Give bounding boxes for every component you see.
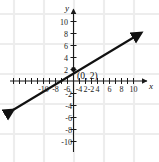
x-tick-label-neg8: -8: [52, 85, 59, 94]
point-annotation-label: (0, 2): [77, 71, 98, 82]
y-intercept-point: [71, 67, 76, 72]
x-tick-label-neg4: -4: [76, 85, 83, 94]
y-axis-label: y: [64, 3, 69, 13]
graph-figure: -10 -8 -6 -4 -2 2 4 6 8 10 10 8 6 4 2 -2…: [0, 0, 159, 162]
y-tick-label-neg10: -10: [61, 138, 72, 147]
x-tick-label-10: 10: [130, 85, 138, 94]
y-tick-label-10: 10: [60, 18, 68, 27]
x-axis-label: x: [148, 81, 153, 91]
y-tick-label-2: 2: [64, 66, 68, 75]
y-tick-label-neg8: -8: [65, 126, 72, 135]
x-tick-label-neg2: -2: [88, 85, 95, 94]
y-tick-label-neg4: -4: [65, 102, 72, 111]
x-tick-label-neg10: -10: [38, 85, 49, 94]
x-tick-label-2: 2: [84, 85, 88, 94]
y-tick-label-8: 8: [64, 30, 68, 39]
y-tick-label-6: 6: [64, 42, 68, 51]
x-tick-label-6: 6: [108, 85, 112, 94]
y-tick-label-neg6: -6: [65, 114, 72, 123]
x-tick-label-4: 4: [96, 85, 100, 94]
x-tick-label-8: 8: [120, 85, 124, 94]
y-tick-label-4: 4: [64, 54, 68, 63]
y-tick-label-neg2: -2: [65, 90, 72, 99]
